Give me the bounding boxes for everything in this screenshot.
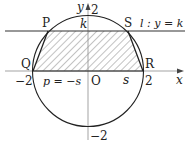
x-left-label: −2 bbox=[15, 74, 33, 88]
origin-label: O bbox=[91, 74, 101, 88]
point-q-label: Q bbox=[21, 57, 31, 71]
y-axis-label: y bbox=[76, 0, 84, 14]
y-top-label: 2 bbox=[91, 3, 99, 17]
point-p-label: P bbox=[42, 16, 50, 30]
coordinate-diagram: y 2 P k S l : y = k Q R −2 p = −s O s 2 … bbox=[0, 0, 190, 147]
point-r-label: R bbox=[145, 57, 155, 71]
p-eq-label: p = −s bbox=[43, 75, 81, 88]
x-right-label: 2 bbox=[145, 74, 153, 88]
y-bottom-label: −2 bbox=[90, 129, 108, 143]
y-axis-arrow-icon bbox=[86, 3, 91, 10]
line-l-label: l : y = k bbox=[140, 17, 184, 30]
point-s-label: S bbox=[124, 16, 132, 30]
s-label: s bbox=[123, 73, 129, 87]
x-axis-label: x bbox=[176, 73, 183, 87]
k-label: k bbox=[80, 17, 87, 31]
